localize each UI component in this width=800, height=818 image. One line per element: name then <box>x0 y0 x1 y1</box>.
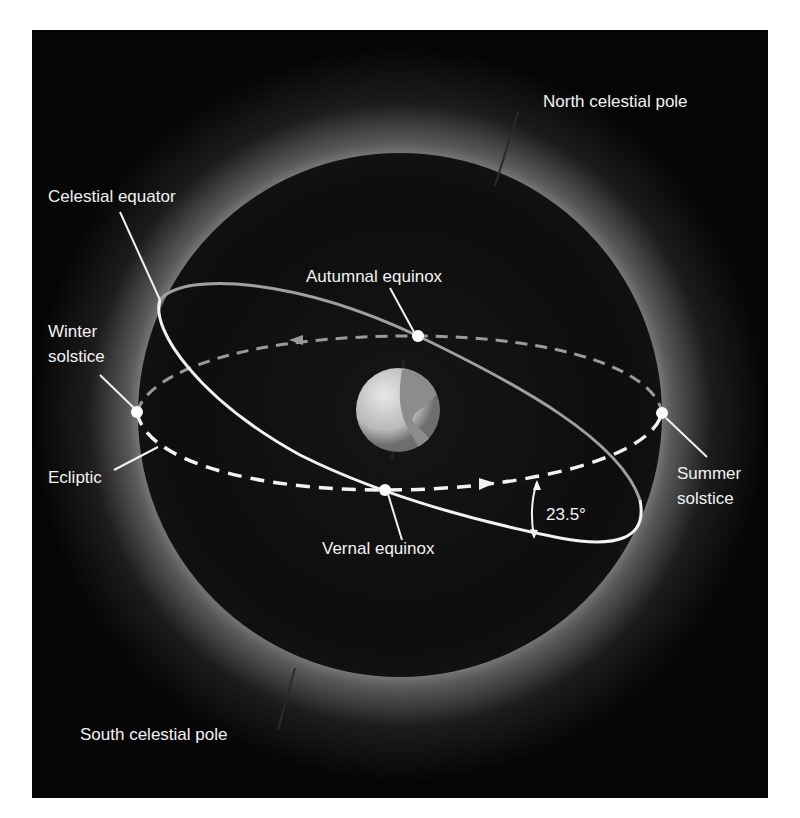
label-winter-solstice-line2: solstice <box>48 347 105 366</box>
label-summer-solstice-line1: Summer <box>677 464 742 483</box>
label-summer-solstice-line2: solstice <box>677 489 734 508</box>
vernal-equinox-point <box>379 484 391 496</box>
label-ecliptic: Ecliptic <box>48 468 102 487</box>
label-north-celestial-pole: North celestial pole <box>543 92 688 111</box>
label-winter-solstice-line1: Winter <box>48 322 97 341</box>
label-tilt-angle: 23.5° <box>546 505 586 524</box>
label-south-celestial-pole: South celestial pole <box>80 725 227 744</box>
label-vernal-equinox: Vernal equinox <box>322 539 435 558</box>
celestial-sphere-diagram: North celestial pole Celestial equator A… <box>0 0 800 818</box>
summer-solstice-point <box>656 407 668 419</box>
label-autumnal-equinox: Autumnal equinox <box>306 267 443 286</box>
label-celestial-equator: Celestial equator <box>48 187 176 206</box>
